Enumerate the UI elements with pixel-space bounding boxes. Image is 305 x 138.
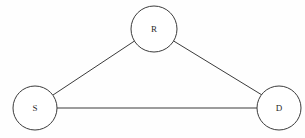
destination-node-label: D (276, 103, 283, 113)
relay-node[interactable]: R (131, 6, 177, 52)
diagram-canvas: S R D (0, 0, 305, 138)
relay-node-label: R (151, 24, 157, 34)
edge-relay-destination[interactable] (172, 40, 262, 95)
edge-source-relay[interactable] (53, 40, 136, 95)
destination-node[interactable]: D (257, 86, 301, 130)
source-node[interactable]: S (13, 86, 57, 130)
node-group: S R D (13, 6, 301, 130)
topology-graph: S R D (0, 0, 305, 138)
source-node-label: S (32, 103, 37, 113)
